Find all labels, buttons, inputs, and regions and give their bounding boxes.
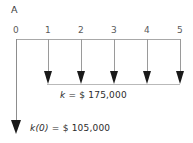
initial-stem bbox=[16, 39, 17, 120]
tick-label-0: 0 bbox=[9, 25, 23, 35]
payment-stem-2 bbox=[81, 39, 82, 71]
initial-symbol: k(0) bbox=[30, 123, 49, 133]
tick-label-4: 4 bbox=[140, 25, 154, 35]
payment-equals: = bbox=[68, 90, 76, 100]
payment-symbol: k bbox=[60, 90, 65, 100]
cash-flow-diagram: A 0 1 2 3 4 5 k = $ 175,000 k(0) = $ 105… bbox=[0, 0, 193, 143]
payment-stem-3 bbox=[114, 39, 115, 71]
timeline-axis bbox=[16, 39, 180, 40]
figure-label: A bbox=[11, 4, 18, 15]
payment-value: $ 175,000 bbox=[79, 90, 127, 100]
payment-stem-4 bbox=[147, 39, 148, 71]
initial-equals: = bbox=[52, 123, 60, 133]
payment-arrow-icon-4 bbox=[143, 71, 151, 84]
initial-annotation: k(0) = $ 105,000 bbox=[30, 123, 110, 133]
tick-label-5: 5 bbox=[173, 25, 187, 35]
initial-value: $ 105,000 bbox=[63, 123, 111, 133]
payment-arrow-icon-5 bbox=[176, 71, 184, 84]
tick-label-3: 3 bbox=[107, 25, 121, 35]
payment-stem-5 bbox=[180, 39, 181, 71]
initial-arrow-icon bbox=[11, 120, 21, 134]
payment-arrow-icon-2 bbox=[77, 71, 85, 84]
payment-arrow-icon-1 bbox=[44, 71, 52, 84]
payment-annotation: k = $ 175,000 bbox=[60, 90, 127, 100]
payment-arrow-icon-3 bbox=[110, 71, 118, 84]
payment-baseline bbox=[47, 84, 180, 85]
payment-stem-1 bbox=[48, 39, 49, 71]
tick-label-2: 2 bbox=[74, 25, 88, 35]
tick-label-1: 1 bbox=[41, 25, 55, 35]
